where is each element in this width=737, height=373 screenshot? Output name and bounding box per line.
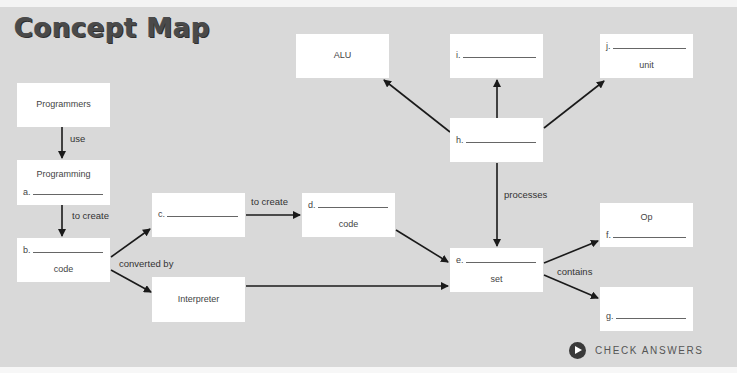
blank-label: a.	[23, 187, 31, 197]
node-text: code	[17, 264, 110, 274]
answer-blank-i[interactable]: i.	[456, 50, 536, 60]
node-programming: Programming a.	[17, 160, 110, 205]
node-h: h.	[450, 118, 543, 162]
node-e-set: e. set	[450, 248, 543, 292]
node-text: Op	[600, 212, 693, 222]
node-op-f: Op f.	[600, 203, 693, 247]
blank-label: d.	[308, 200, 316, 210]
node-text: unit	[600, 60, 693, 70]
blank-label: j.	[606, 41, 611, 51]
blank-label: e.	[456, 255, 464, 265]
node-alu: ALU	[296, 34, 389, 78]
node-g: g.	[600, 287, 693, 331]
edge-label-use: use	[70, 133, 85, 144]
answer-blank-a[interactable]: a.	[23, 187, 103, 197]
answer-blank-h[interactable]: h.	[456, 135, 536, 145]
blank-label: b.	[23, 245, 31, 255]
answer-blank-f[interactable]: f.	[606, 230, 686, 240]
page-title: Concept Map	[14, 13, 210, 43]
blank-label: f.	[606, 230, 611, 240]
node-interpreter: Interpreter	[152, 277, 245, 322]
blank-label: c.	[158, 209, 165, 219]
edge-label-to-create: to create	[251, 196, 288, 207]
node-text: Interpreter	[152, 294, 245, 304]
concept-map-canvas: Concept Map Programmers Programming a. b…	[0, 0, 737, 367]
node-text: Programmers	[17, 99, 110, 109]
edge-label-to-create: to create	[72, 210, 109, 221]
blank-label: g.	[606, 311, 614, 321]
node-d-code: d. code	[302, 193, 395, 237]
check-answers-button[interactable]: CHECK ANSWERS	[569, 342, 704, 359]
answer-blank-b[interactable]: b.	[23, 245, 103, 255]
edge-label-contains: contains	[557, 266, 592, 277]
blank-label: h.	[456, 135, 464, 145]
answer-blank-e[interactable]: e.	[456, 255, 536, 265]
node-j-unit: j. unit	[600, 34, 693, 78]
node-programmers: Programmers	[17, 83, 110, 127]
check-answers-label: CHECK ANSWERS	[595, 345, 704, 356]
node-c: c.	[152, 193, 245, 237]
node-text: code	[302, 219, 395, 229]
node-text: set	[450, 274, 543, 284]
edge-label-converted-by: converted by	[119, 258, 173, 269]
edge-label-processes: processes	[504, 189, 547, 200]
play-circle-icon	[569, 342, 586, 359]
node-text: Programming	[17, 169, 110, 179]
bottom-border	[0, 367, 737, 373]
blank-label: i.	[456, 50, 461, 60]
answer-blank-d[interactable]: d.	[308, 200, 388, 210]
answer-blank-c[interactable]: c.	[158, 209, 238, 219]
node-text: ALU	[296, 50, 389, 60]
answer-blank-j[interactable]: j.	[606, 41, 686, 51]
answer-blank-g[interactable]: g.	[606, 311, 686, 321]
node-i: i.	[450, 34, 543, 78]
node-b-code: b. code	[17, 238, 110, 282]
